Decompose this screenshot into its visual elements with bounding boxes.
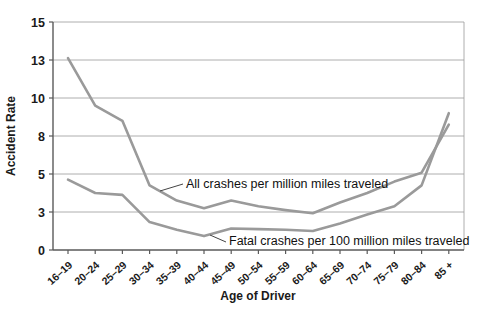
y-tick-label-15: 15 — [31, 16, 45, 30]
y-tick-label-8: 8 — [38, 130, 45, 144]
y-tick-label-5: 5 — [38, 168, 45, 182]
y-tick-label-13: 13 — [31, 54, 45, 68]
x-tick-label-8: 55–59 — [262, 258, 292, 287]
x-tick-label-2: 25–29 — [99, 258, 129, 287]
fatal-crashes-leader-line — [210, 235, 226, 242]
fatal-crashes-line — [68, 113, 449, 236]
x-tick-label-0: 16–19 — [45, 258, 75, 287]
x-tick-label-13: 80–84 — [398, 258, 428, 287]
y-axis-title: Accident Rate — [4, 96, 18, 176]
accident-rate-figure: 035810131516–1920–2425–2930–3435–3940–44… — [0, 0, 480, 320]
x-tick-label-4: 35–39 — [153, 258, 183, 287]
x-tick-label-5: 40–44 — [181, 258, 211, 287]
all-crashes-leader-line — [160, 184, 183, 191]
x-tick-label-7: 50–54 — [235, 258, 265, 287]
x-tick-label-9: 60–64 — [289, 258, 319, 287]
gridlines — [53, 22, 464, 250]
x-tick-label-11: 70–74 — [344, 258, 374, 287]
y-tick-label-3: 3 — [38, 206, 45, 220]
y-tick-label-0: 0 — [38, 244, 45, 258]
x-tick-label-14: 85 + — [432, 259, 455, 282]
x-tick-label-6: 45–49 — [208, 258, 238, 287]
fatal-crashes-label: Fatal crashes per 100 million miles trav… — [229, 234, 469, 248]
all-crashes-label: All crashes per million miles traveled — [186, 177, 388, 191]
x-tick-label-10: 65–69 — [317, 258, 347, 287]
x-axis-title: Age of Driver — [220, 289, 296, 303]
data-series — [68, 58, 449, 236]
axes — [49, 22, 464, 254]
x-tick-label-1: 20–24 — [72, 258, 102, 287]
x-tick-label-3: 30–34 — [126, 258, 156, 287]
y-tick-label-10: 10 — [31, 92, 45, 106]
x-tick-label-12: 75–79 — [371, 258, 401, 287]
accident-rate-chart: 035810131516–1920–2425–2930–3435–3940–44… — [0, 0, 480, 320]
